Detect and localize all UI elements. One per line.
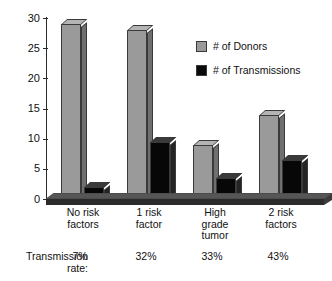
- x-axis-tick-mark: [119, 199, 120, 204]
- x-axis-category-label: 2 riskfactors: [248, 207, 314, 230]
- x-axis-tick-mark: [53, 199, 54, 204]
- y-axis-tick-label: 25: [16, 43, 40, 54]
- bar-chart-figure: 051015202530 No riskfactors1 riskfactorH…: [0, 0, 332, 281]
- bar: [127, 30, 147, 199]
- x-axis-category-label-line: tumor: [182, 230, 248, 242]
- x-axis-category-label-line: factors: [248, 219, 314, 231]
- transmission-rate-value: 7%: [60, 250, 100, 262]
- legend-item[interactable]: # of Donors: [196, 40, 301, 52]
- bar: [259, 115, 279, 199]
- y-axis-tick-label: 5: [16, 163, 40, 174]
- x-axis-category-label-line: factor: [116, 219, 182, 231]
- x-axis-category-label: 1 riskfactor: [116, 207, 182, 230]
- legend-item[interactable]: # of Transmissions: [196, 64, 301, 76]
- transmission-rate-value: 32%: [126, 250, 166, 262]
- y-axis-tick-label: 15: [16, 103, 40, 114]
- x-axis-category-label-line: factors: [50, 219, 116, 231]
- x-axis-category-label-line: No risk: [50, 207, 116, 219]
- transmission-rate-value: 43%: [258, 250, 298, 262]
- x-axis-tick-mark: [251, 199, 252, 204]
- bar-face: [150, 142, 170, 199]
- y-axis-tick-label: 30: [16, 13, 40, 24]
- y-axis-tick-label: 20: [16, 73, 40, 84]
- bar: [150, 142, 170, 199]
- y-axis-tick-label: 0: [16, 194, 40, 205]
- x-axis-category-label: No riskfactors: [50, 207, 116, 230]
- bar-face: [61, 24, 81, 199]
- bar-face: [259, 115, 279, 199]
- chart-floor: [46, 193, 332, 206]
- x-axis-tick-mark: [317, 199, 318, 204]
- bar: [61, 24, 81, 199]
- bar: [193, 145, 213, 199]
- transmission-rate-value: 33%: [192, 250, 232, 262]
- x-axis-tick-mark: [185, 199, 186, 204]
- legend-swatch-icon: [196, 65, 207, 76]
- bar-side-3d: [170, 140, 176, 199]
- x-axis-category-label-line: 1 risk: [116, 207, 182, 219]
- x-axis-category-label: Highgradetumor: [182, 207, 248, 242]
- legend-item-label: # of Transmissions: [213, 64, 301, 76]
- x-axis-category-label-line: High: [182, 207, 248, 219]
- bar-side-3d: [81, 22, 87, 199]
- y-axis-tick-label: 10: [16, 133, 40, 144]
- legend-item-label: # of Donors: [213, 40, 267, 52]
- bar-face: [127, 30, 147, 199]
- legend-swatch-icon: [196, 41, 207, 52]
- transmission-rate-caption-line2: rate:: [10, 262, 88, 274]
- chart-legend: # of Donors# of Transmissions: [196, 40, 301, 88]
- x-axis-category-label-line: 2 risk: [248, 207, 314, 219]
- bar-face: [193, 145, 213, 199]
